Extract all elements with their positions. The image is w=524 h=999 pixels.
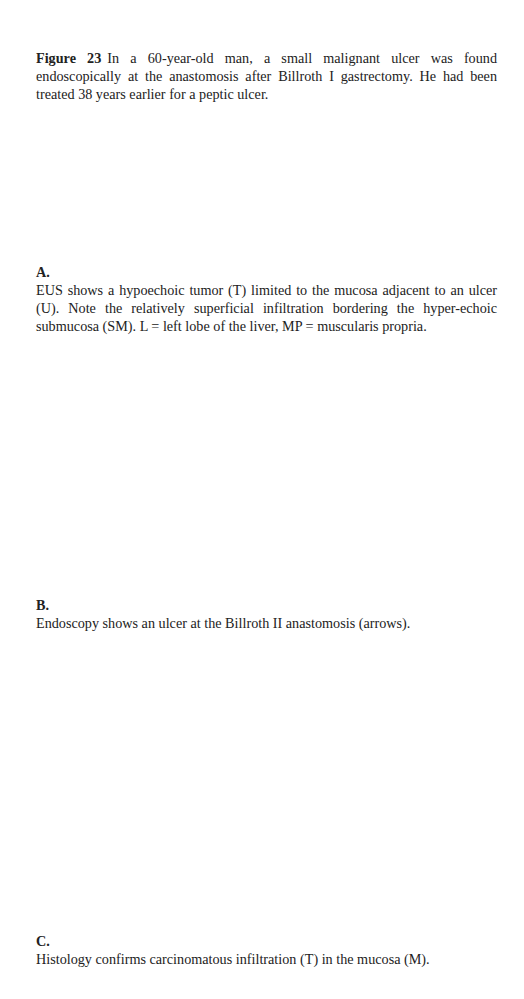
panel-b-text: Endoscopy shows an ulcer at the Billroth… <box>36 615 410 631</box>
panel-c-label: C. <box>36 932 497 950</box>
figure-label: Figure 23 <box>36 50 101 66</box>
figure-caption-text: In a 60-year-old man, a small malignant … <box>36 50 497 102</box>
panel-c-caption: C. Histology confirms carcinomatous infi… <box>36 932 497 968</box>
panel-a-caption: A. EUS shows a hypoechoic tumor (T) limi… <box>36 263 497 335</box>
panel-b-label: B. <box>36 596 497 614</box>
panel-a-label: A. <box>36 263 497 281</box>
figure-caption: Figure 23In a 60-year-old man, a small m… <box>36 49 497 103</box>
panel-c-text: Histology confirms carcinomatous infiltr… <box>36 951 430 967</box>
panel-b-caption: B. Endoscopy shows an ulcer at the Billr… <box>36 596 497 632</box>
panel-a-text: EUS shows a hypoechoic tumor (T) limited… <box>36 282 497 334</box>
